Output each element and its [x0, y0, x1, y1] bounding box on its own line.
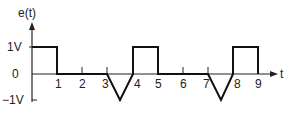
x-tick-label-2: 2: [79, 77, 86, 91]
y-axis-arrow-icon: [29, 22, 35, 30]
y-tick-label-1v: 1V: [7, 40, 22, 54]
x-tick-label-9: 9: [255, 77, 262, 91]
x-tick-label-4: 4: [134, 77, 141, 91]
y-tick-label-neg1v: −1V: [2, 93, 24, 107]
x-tick-label-6: 6: [180, 77, 187, 91]
x-tick-label-1: 1: [55, 77, 62, 91]
y-tick-label-0: 0: [12, 67, 19, 81]
y-axis-label: e(t): [18, 6, 36, 20]
x-tick-label-7: 7: [203, 77, 210, 91]
x-axis-arrow-icon: [270, 71, 278, 77]
x-tick-label-3: 3: [102, 77, 109, 91]
x-axis-label: t: [280, 67, 284, 81]
x-tick-label-5: 5: [155, 77, 162, 91]
waveform-chart: e(t) t 1V 0 −1V 1 2 3 4 5 6 7 8 9: [0, 0, 294, 118]
x-tick-label-8: 8: [234, 77, 241, 91]
